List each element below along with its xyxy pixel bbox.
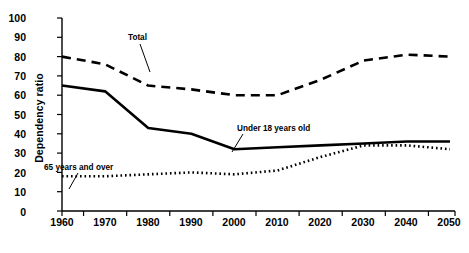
annotation-leader-lines (69, 44, 243, 189)
plot-area (0, 0, 469, 253)
y-axis-ticks (57, 18, 62, 211)
series-line-65-and-over (62, 145, 450, 176)
axis-lines (62, 18, 455, 211)
leader-line-65-and-over (69, 173, 78, 189)
series-line-total (62, 55, 450, 96)
x-axis-ticks (62, 211, 455, 216)
dependency-ratio-line-chart: Dependency ratio 100 90 80 70 60 50 40 3… (0, 0, 469, 253)
leader-line-total (140, 44, 150, 72)
